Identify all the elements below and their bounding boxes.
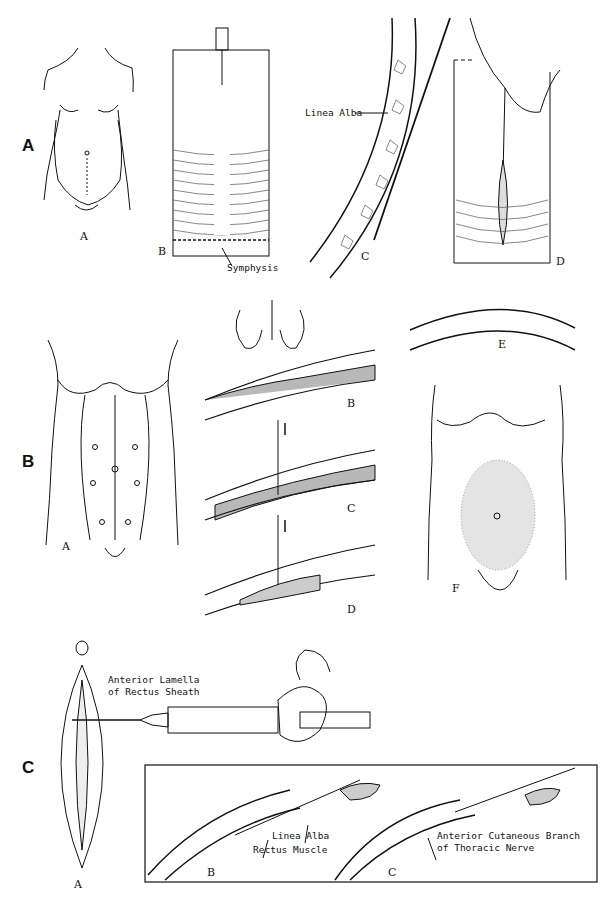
subfigure-label-a-D: D <box>556 255 565 268</box>
callout-nerve-line2: of Thoracic Nerve <box>437 842 580 854</box>
incision-with-fingers-drawing <box>454 18 560 263</box>
subfigure-label-c-B: B <box>207 866 215 879</box>
pregnant-torso-drawing <box>44 48 133 210</box>
torso-rectus-injection-drawing <box>46 340 178 557</box>
subfigure-label-c-C: C <box>388 866 396 879</box>
callout-anterior-cutaneous-branch: Anterior Cutaneous Branch of Thoracic Ne… <box>437 830 580 854</box>
rectus-sheath-sections-drawing <box>148 768 575 880</box>
callout-linea-alba-top: Linea Alba <box>305 107 362 119</box>
subfigure-label-b-F: F <box>452 582 460 595</box>
subfigure-label-b-D: D <box>347 603 356 616</box>
subfigure-label-b-A: A <box>62 540 70 553</box>
infiltrated-torso-drawing <box>410 309 575 590</box>
panel-label-B: B <box>22 452 34 472</box>
callout-anterior-lamella: Anterior Lamella of Rectus Sheath <box>108 674 200 698</box>
subfigure-label-a-A: A <box>80 230 88 243</box>
subfigure-label-c-A: A <box>74 878 82 891</box>
panel-label-C: C <box>22 758 34 778</box>
abdominal-wall-needle-drawing <box>173 28 269 266</box>
subfigure-label-b-C: C <box>347 502 355 515</box>
linea-alba-section-drawing <box>310 18 450 278</box>
callout-rectus-muscle: Rectus Muscle <box>253 844 327 856</box>
illustration-artwork <box>0 0 602 904</box>
subfigure-label-a-B: B <box>158 245 166 258</box>
callout-linea-alba-bottom: Linea Alba <box>272 830 329 842</box>
callout-nerve-line1: Anterior Cutaneous Branch <box>437 830 580 842</box>
subfigure-label-b-B: B <box>347 397 355 410</box>
callout-anterior-lamella-line2: of Rectus Sheath <box>108 686 200 698</box>
inset-frame <box>145 765 597 882</box>
subfigure-label-a-C: C <box>361 250 369 263</box>
panel-label-A: A <box>22 136 34 156</box>
needle-insertion-sequence-drawing <box>205 300 375 615</box>
callout-anterior-lamella-line1: Anterior Lamella <box>108 674 200 686</box>
subfigure-label-b-E: E <box>498 338 506 351</box>
callout-symphysis: Symphysis <box>227 262 278 274</box>
